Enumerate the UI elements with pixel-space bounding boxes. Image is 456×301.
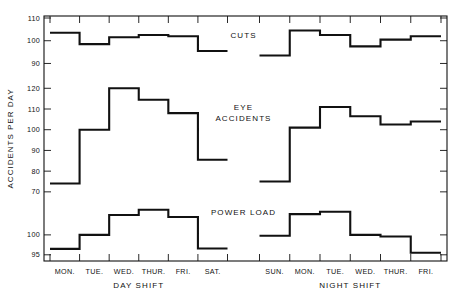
series-label-cuts: CUTS [230, 31, 256, 40]
shift-group-label-night: NIGHT SHIFT [319, 281, 381, 290]
series-line-cuts-night-shift [260, 31, 442, 56]
chart-container: 9010011070809010011012095100CUTSEYEACCID… [0, 0, 456, 301]
series-label-eye-line1: EYE [234, 103, 253, 112]
y-tick-cuts-110: 110 [28, 14, 447, 23]
category-label-day-2: WED. [114, 267, 134, 276]
category-label-day-4: FRI. [176, 267, 191, 276]
y-tick-label: 95 [31, 250, 40, 259]
y-axis-title: ACCIDENTS PER DAY [6, 89, 15, 189]
accidents-per-day-chart: 9010011070809010011012095100CUTSEYEACCID… [0, 0, 456, 301]
y-tick-label: 70 [31, 187, 40, 196]
y-tick-label: 110 [28, 105, 40, 114]
category-label-night-4: THUR. [384, 267, 408, 276]
category-label-day-1: TUE. [85, 267, 103, 276]
y-tick-label: 80 [31, 167, 40, 176]
y-tick-eye-accidents-70: 70 [31, 187, 447, 196]
series-line-eye-accidents-day-shift [50, 88, 228, 183]
y-tick-label: 110 [28, 14, 40, 23]
y-tick-label: 90 [31, 146, 40, 155]
y-tick-eye-accidents-120: 120 [27, 84, 447, 93]
shift-group-label-day: DAY SHIFT [113, 281, 164, 290]
category-label-night-2: TUE. [326, 267, 344, 276]
y-tick-eye-accidents-80: 80 [31, 167, 447, 176]
series-label-power-load: POWER LOAD [211, 208, 276, 217]
category-label-day-0: MON. [55, 267, 75, 276]
category-label-day-3: THUR. [142, 267, 166, 276]
y-tick-power-load-95: 95 [31, 250, 447, 259]
plot-frame [44, 16, 447, 261]
category-label-day-5: SAT. [205, 267, 221, 276]
y-tick-label: 100 [27, 36, 40, 45]
y-tick-label: 100 [27, 125, 40, 134]
series-label-eye-line2: ACCIDENTS [215, 114, 271, 123]
y-tick-label: 90 [31, 59, 40, 68]
y-tick-cuts-90: 90 [31, 59, 447, 68]
category-label-night-1: MON. [295, 267, 315, 276]
series-line-power-load-day-shift [50, 210, 228, 249]
category-label-night-5: FRI. [418, 267, 433, 276]
series-line-eye-accidents-night-shift [260, 107, 442, 182]
series-line-power-load-night-shift [260, 212, 442, 253]
category-label-night-3: WED. [355, 267, 375, 276]
y-tick-label: 100 [27, 230, 40, 239]
y-tick-eye-accidents-90: 90 [31, 146, 447, 155]
y-tick-label: 120 [27, 84, 40, 93]
category-label-night-0: SUN. [265, 267, 284, 276]
series-line-cuts-day-shift [50, 33, 228, 51]
